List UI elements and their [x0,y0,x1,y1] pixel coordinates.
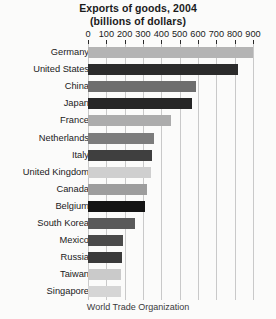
x-axis-tick-label: 0 [85,29,90,40]
bar-track [88,164,151,181]
bar-track [88,266,121,283]
bar-category-label: Canada [56,181,89,198]
x-axis-tick-label: 500 [172,29,187,40]
bar-row: Taiwan [0,266,276,283]
x-axis-tick-label: 600 [190,29,205,40]
bar [88,167,151,178]
bar-category-label: Italy [72,147,89,164]
bar [88,218,135,229]
bar-row: Belgium [0,198,276,215]
bar-track [88,129,154,146]
bar-row: United Kingdom [0,164,276,181]
x-axis-tick-label: 700 [209,29,224,40]
bar-track [88,44,253,61]
bar-track [88,61,238,78]
bar [88,47,253,58]
bar-track [88,181,147,198]
bar-row: France [0,112,276,129]
bar [88,184,147,195]
bar-row: Canada [0,181,276,198]
bar-row: Japan [0,95,276,112]
bar-track [88,78,196,95]
bar-row: South Korea [0,215,276,232]
bar-category-label: Taiwan [60,266,89,283]
chart-container: Exports of goods, 2004 (billions of doll… [0,0,276,319]
bar-category-label: Russia [61,249,89,266]
bar [88,150,152,161]
bar [88,115,171,126]
bar-category-label: United Kingdom [23,164,89,181]
bar-track [88,283,121,300]
page-title: Exports of goods, 2004 [0,0,276,15]
x-axis-tick-label: 800 [227,29,242,40]
x-axis: 0100200300400500600700800900 [0,29,276,44]
chart-subtitle: (billions of dollars) [0,15,276,28]
bar-rows: GermanyUnited StatesChinaJapanFranceNeth… [0,44,276,300]
bar [88,201,145,212]
bar [88,98,192,109]
x-axis-tick-label: 400 [154,29,169,40]
bar-row: Mexico [0,232,276,249]
bar-track [88,147,152,164]
bar-category-label: China [65,78,89,95]
bar [88,252,122,263]
bar-row: Russia [0,249,276,266]
bar-track [88,249,122,266]
source-note: World Trade Organization [0,302,276,319]
bar [88,81,196,92]
bar [88,235,123,246]
bar-category-label: United States [33,61,89,78]
bar-track [88,95,192,112]
plot-area: GermanyUnited StatesChinaJapanFranceNeth… [0,44,276,302]
chart-title-block: Exports of goods, 2004 (billions of doll… [0,0,276,28]
bar [88,286,121,297]
bar-row: Germany [0,44,276,61]
bar [88,64,238,75]
bar-track [88,232,123,249]
x-axis-tick-label: 100 [99,29,114,40]
bar-category-label: Japan [64,95,89,112]
bar-track [88,215,135,232]
bar-category-label: South Korea [37,215,89,232]
bar [88,269,121,280]
bar-track [88,112,171,129]
bar-row: United States [0,61,276,78]
x-axis-tick-label: 900 [245,29,260,40]
bar-category-label: France [60,112,89,129]
bar-category-label: Singapore [47,283,89,300]
bar-category-label: Netherlands [39,129,89,146]
bar-category-label: Mexico [60,232,89,249]
bar-row: Netherlands [0,129,276,146]
bar-track [88,198,145,215]
x-axis-tick-label: 300 [135,29,150,40]
x-axis-tick-label: 200 [117,29,132,40]
bar-category-label: Belgium [55,198,89,215]
bar [88,133,154,144]
bar-row: Singapore [0,283,276,300]
bar-row: China [0,78,276,95]
bar-category-label: Germany [51,44,89,61]
bar-row: Italy [0,147,276,164]
